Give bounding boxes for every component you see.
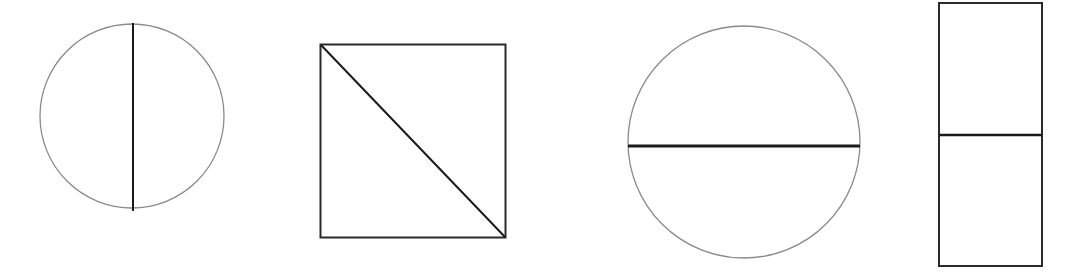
shapes-diagram <box>0 0 1077 278</box>
shape-circle-vertical-diameter <box>40 23 224 211</box>
shape-rectangle-horizontal-midline <box>939 3 1042 266</box>
diagonal-line <box>321 45 505 237</box>
shape-circle-horizontal-diameter <box>628 26 860 258</box>
circle-outline <box>628 26 860 258</box>
shape-square-diagonal <box>321 45 506 238</box>
